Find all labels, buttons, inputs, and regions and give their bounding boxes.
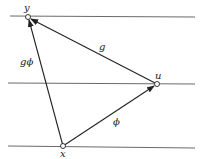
node-label-y: y — [23, 2, 30, 13]
middle-horizontal-line — [8, 83, 195, 84]
node-y — [26, 15, 31, 20]
edge-label-g-phi: gϕ — [20, 56, 33, 67]
bottom-horizontal-line — [8, 146, 195, 148]
node-u — [155, 82, 160, 87]
node-label-x: x — [60, 148, 66, 159]
edge-u-to-y — [31, 19, 157, 84]
edge-label-phi: ϕ — [113, 116, 120, 127]
node-label-u: u — [155, 70, 161, 81]
diagram-canvas: y u x gϕ g ϕ — [0, 0, 200, 159]
edge-x-to-u — [63, 86, 154, 146]
edge-label-g: g — [99, 41, 105, 52]
top-horizontal-line — [10, 16, 195, 17]
